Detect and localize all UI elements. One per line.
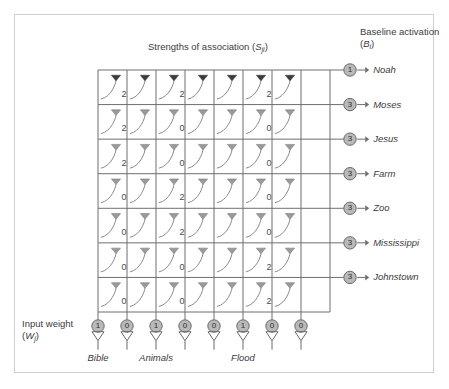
assoc-title: Strengths of association (Sji)	[148, 41, 268, 52]
input-funnel-5	[237, 332, 249, 341]
baseline-value-3: 3	[343, 167, 357, 181]
assoc-arrowhead-r1-c2	[169, 110, 178, 116]
assoc-curve-r4-c3	[188, 219, 203, 238]
assoc-arrowhead-r1-c6	[285, 110, 294, 116]
assoc-value-r0-c0: 2	[118, 89, 130, 99]
assoc-value-r6-c0: 0	[118, 296, 130, 306]
assoc-subscript: ji	[262, 46, 265, 53]
input-weight-title: Input weight (Wj)	[22, 318, 73, 343]
assoc-arrowhead-r3-c2	[169, 179, 178, 185]
assoc-arrowhead-r0-c5	[256, 75, 265, 81]
assoc-value-r6-c2: 0	[176, 296, 188, 306]
baseline-value-6: 3	[343, 270, 357, 284]
assoc-arrowhead-r4-c5	[256, 214, 265, 220]
input-weight-value-0: 1	[91, 319, 105, 333]
row-label-zoo: Zoo	[373, 202, 389, 213]
assoc-arrowhead-r3-c1	[140, 179, 149, 185]
assoc-arrowhead-r0-c2	[169, 75, 178, 81]
assoc-arrowhead-r3-c3	[198, 179, 207, 185]
assoc-arrowhead-r0-c6	[285, 75, 294, 81]
assoc-arrowhead-r0-c4	[227, 75, 236, 81]
assoc-arrowhead-r4-c4	[227, 214, 236, 220]
assoc-arrowhead-r6-c2	[169, 283, 178, 289]
row-name-arrowhead-1	[365, 102, 369, 108]
row-name-arrowhead-6	[365, 274, 369, 280]
assoc-curve-r1-c1	[130, 115, 145, 134]
baseline-symbol: B	[363, 38, 369, 49]
assoc-arrowhead-r2-c6	[285, 144, 294, 150]
assoc-value-r3-c0: 0	[118, 192, 130, 202]
assoc-curve-r4-c2	[159, 219, 174, 238]
assoc-curve-r5-c3	[188, 253, 203, 272]
assoc-curve-r2-c5	[246, 150, 261, 169]
assoc-arrowhead-r2-c5	[256, 144, 265, 150]
baseline-value-1: 3	[343, 98, 357, 112]
assoc-value-r0-c2: 2	[176, 89, 188, 99]
input-weight-value-3: 0	[178, 319, 192, 333]
row-label-noah: Noah	[373, 64, 396, 75]
assoc-arrowhead-r5-c3	[198, 248, 207, 254]
assoc-value-r5-c2: 0	[176, 262, 188, 272]
assoc-arrowhead-r5-c0	[111, 248, 120, 254]
assoc-curve-r5-c0	[101, 253, 116, 272]
assoc-arrowhead-r6-c1	[140, 283, 149, 289]
assoc-arrowhead-r5-c4	[227, 248, 236, 254]
assoc-curve-r3-c4	[217, 184, 232, 203]
row-name-arrowhead-2	[365, 136, 369, 142]
assoc-curve-r0-c2	[159, 80, 174, 99]
assoc-value-r3-c2: 2	[176, 192, 188, 202]
assoc-arrowhead-r2-c3	[198, 144, 207, 150]
assoc-arrowhead-r4-c3	[198, 214, 207, 220]
baseline-title-line2: (Bi)	[360, 38, 439, 51]
baseline-value-4: 3	[343, 201, 357, 215]
assoc-value-r1-c2: 0	[176, 123, 188, 133]
assoc-value-r2-c0: 2	[118, 158, 130, 168]
row-label-jesus: Jesus	[373, 133, 398, 144]
baseline-title-line1: Baseline activation	[360, 26, 439, 38]
input-symbol: W	[25, 330, 34, 341]
assoc-curve-r0-c0	[101, 80, 116, 99]
assoc-arrowhead-r3-c5	[256, 179, 265, 185]
input-weight-value-5: 1	[236, 319, 250, 333]
assoc-arrowhead-r3-c4	[227, 179, 236, 185]
assoc-curve-r2-c3	[188, 150, 203, 169]
assoc-arrowhead-r4-c1	[140, 214, 149, 220]
assoc-arrowhead-r4-c6	[285, 214, 294, 220]
input-funnel-4	[208, 332, 220, 341]
assoc-curve-r4-c4	[217, 219, 232, 238]
assoc-curve-r6-c3	[188, 288, 203, 307]
assoc-arrowhead-r6-c4	[227, 283, 236, 289]
assoc-value-r5-c5: 2	[263, 262, 275, 272]
baseline-value-2: 3	[343, 132, 357, 146]
assoc-value-r2-c2: 0	[176, 158, 188, 168]
assoc-value-r6-c5: 2	[263, 296, 275, 306]
assoc-curve-r1-c4	[217, 115, 232, 134]
assoc-curve-r5-c6	[275, 253, 290, 272]
baseline-value-5: 3	[343, 236, 357, 250]
assoc-value-r5-c0: 0	[118, 262, 130, 272]
baseline-title: Baseline activation (Bi)	[360, 26, 439, 51]
column-label-flood: Flood	[213, 352, 273, 363]
input-weight-value-1: 0	[120, 319, 134, 333]
assoc-arrowhead-r6-c0	[111, 283, 120, 289]
assoc-curve-r4-c5	[246, 219, 261, 238]
assoc-curve-r0-c3	[188, 80, 203, 99]
assoc-curve-r2-c6	[275, 150, 290, 169]
row-label-johnstown: Johnstown	[373, 271, 418, 282]
input-subscript: j	[34, 335, 36, 342]
assoc-arrowhead-r3-c6	[285, 179, 294, 185]
assoc-curve-r1-c6	[275, 115, 290, 134]
input-title-line1: Input weight	[22, 318, 73, 330]
assoc-arrowhead-r4-c2	[169, 214, 178, 220]
assoc-value-r4-c5: 0	[263, 227, 275, 237]
input-funnel-2	[150, 332, 162, 341]
row-label-farm: Farm	[373, 168, 395, 179]
assoc-curve-r1-c2	[159, 115, 174, 134]
assoc-curve-r3-c1	[130, 184, 145, 203]
assoc-curve-r6-c6	[275, 288, 290, 307]
input-weight-value-2: 1	[149, 319, 163, 333]
assoc-curve-r0-c1	[130, 80, 145, 99]
assoc-curve-r3-c6	[275, 184, 290, 203]
assoc-arrowhead-r2-c4	[227, 144, 236, 150]
assoc-arrowhead-r6-c6	[285, 283, 294, 289]
